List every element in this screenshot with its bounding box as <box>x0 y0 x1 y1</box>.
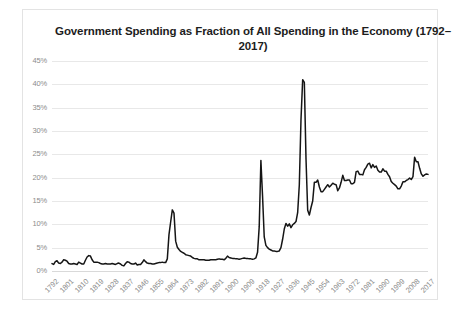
series-line-government-spending <box>52 80 428 266</box>
chart-plot-area: 45%40%35%30%25%20%15%10%5%0% 17921801181… <box>0 0 458 313</box>
series-line-chart <box>0 0 458 313</box>
